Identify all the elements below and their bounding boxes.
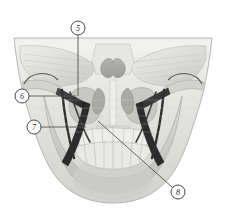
callout-8-number: 8 xyxy=(176,188,180,197)
callout-5-number: 5 xyxy=(76,24,80,33)
anatomy-figure: 5 6 7 8 xyxy=(0,0,226,214)
callout-8[interactable]: 8 xyxy=(171,185,185,199)
nasal-aperture xyxy=(101,59,126,78)
callout-7[interactable]: 7 xyxy=(27,120,41,134)
skull-illustration: 5 6 7 8 xyxy=(0,0,226,214)
callout-6-number: 6 xyxy=(20,92,24,101)
callout-6[interactable]: 6 xyxy=(15,89,29,103)
nasal-septum xyxy=(110,80,116,126)
callout-5[interactable]: 5 xyxy=(71,21,85,35)
